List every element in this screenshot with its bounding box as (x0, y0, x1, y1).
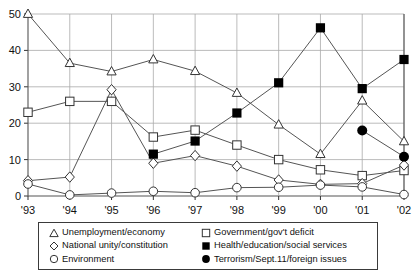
data-point-open-square (316, 166, 324, 174)
data-point-filled-square (399, 55, 408, 64)
y-tick-label: 30 (9, 81, 21, 93)
data-point-open-square (274, 155, 282, 163)
data-point-filled-square (149, 150, 158, 159)
data-point-open-circle (400, 190, 409, 199)
legend-label: Environment (62, 255, 114, 264)
x-tick-label: '94 (63, 204, 77, 216)
data-point-open-triangle (274, 120, 283, 128)
x-tick-label: '97 (188, 204, 202, 216)
legend-item-environment: Environment (47, 253, 199, 266)
chart-legend: Unemployment/economy Government/gov't de… (38, 222, 378, 270)
x-tick-label: '02 (397, 204, 411, 216)
data-point-filled-square (232, 108, 241, 117)
data-point-filled-circle (399, 152, 409, 162)
x-tick-label: '98 (230, 204, 244, 216)
data-point-filled-square (274, 78, 283, 87)
data-point-open-circle (358, 183, 367, 192)
filled-square-icon (199, 241, 212, 251)
data-point-filled-square (316, 23, 325, 32)
x-tick-label: '96 (146, 204, 160, 216)
data-point-open-square (233, 141, 241, 149)
data-point-open-circle (274, 183, 283, 192)
legend-item-health-education-social-services: Health/education/social services (199, 239, 377, 252)
data-point-open-circle (65, 191, 74, 200)
open-square-icon (199, 228, 212, 238)
y-tick-label: 0 (15, 190, 21, 202)
series-1 (24, 97, 408, 180)
y-tick-label: 20 (9, 117, 21, 129)
legend-label: Government/gov't deficit (214, 228, 314, 237)
x-tick-label: '93 (21, 204, 35, 216)
data-point-open-circle (191, 188, 200, 197)
data-point-filled-square (191, 136, 200, 145)
legend-item-unemployment-economy: Unemployment/economy (47, 226, 199, 239)
x-tick-label: '95 (104, 204, 118, 216)
x-tick-label: '00 (313, 204, 327, 216)
line-chart: 01020304050'93'94'95'96'97'98'99'00'01'0… (0, 0, 414, 279)
data-point-open-triangle (232, 88, 241, 96)
series-0 (23, 9, 408, 158)
data-point-open-circle (316, 181, 325, 190)
legend-label: National unity/constitution (62, 241, 168, 250)
y-tick-label: 10 (9, 154, 21, 166)
data-point-open-square (66, 97, 74, 105)
filled-circle-icon (199, 254, 212, 264)
data-point-open-circle (233, 183, 242, 192)
legend-label: Health/education/social services (214, 241, 347, 250)
legend-item-government-deficit: Government/gov't deficit (199, 226, 377, 239)
legend-label: Terrorism/Sept.11/foreign issues (214, 255, 347, 264)
legend-item-national-unity-constitution: National unity/constitution (47, 239, 199, 252)
data-point-open-square (149, 133, 157, 141)
data-point-open-square (107, 97, 115, 105)
open-circle-icon (47, 254, 60, 264)
data-point-open-triangle (358, 96, 367, 104)
data-point-open-circle (107, 189, 116, 198)
legend-item-terrorism-sept11-foreign-issues: Terrorism/Sept.11/foreign issues (199, 253, 377, 266)
x-tick-label: '01 (355, 204, 369, 216)
x-tick-label: '99 (271, 204, 285, 216)
legend-label: Unemployment/economy (62, 228, 165, 237)
data-point-open-diamond (65, 172, 74, 182)
data-point-open-circle (24, 180, 33, 189)
data-point-open-triangle (149, 55, 158, 63)
data-point-open-square (24, 108, 32, 116)
data-point-open-triangle (23, 9, 32, 17)
data-point-open-circle (149, 187, 158, 196)
data-point-open-diamond (107, 85, 116, 95)
data-point-filled-circle (357, 125, 367, 135)
open-diamond-icon (47, 241, 60, 251)
data-point-filled-square (358, 84, 367, 93)
data-point-open-diamond (232, 161, 241, 171)
data-point-open-square (191, 126, 199, 134)
y-tick-label: 50 (9, 8, 21, 20)
open-triangle-icon (47, 228, 60, 238)
y-tick-label: 40 (9, 44, 21, 56)
